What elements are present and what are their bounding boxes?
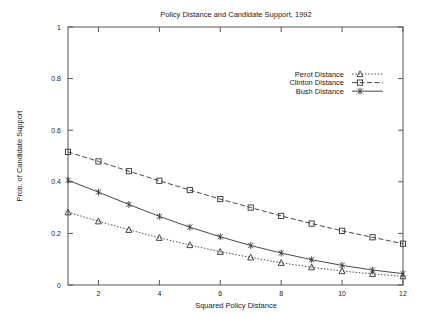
plot-frame [68, 27, 403, 285]
series-line [68, 152, 403, 244]
x-tick-label: 10 [338, 290, 346, 297]
policy-distance-chart: Policy Distance and Candidate Support, 1… [0, 0, 424, 318]
x-axis-title: Squared Policy Distance [195, 301, 277, 310]
series-bush-distance [65, 177, 405, 277]
data-point-marker [278, 260, 284, 266]
y-axis-title: Prob. of Candidate Support [15, 110, 24, 202]
series-perot-distance [65, 209, 406, 279]
chart-container: Policy Distance and Candidate Support, 1… [0, 0, 424, 318]
x-tick-label: 2 [97, 290, 101, 297]
y-tick-label: 0.6 [51, 127, 61, 134]
legend-label: Bush Distance [296, 87, 344, 96]
chart-title: Policy Distance and Candidate Support, 1… [160, 10, 311, 19]
y-tick-label: 0.2 [51, 230, 61, 237]
data-point-marker [126, 201, 131, 208]
data-point-marker [156, 235, 162, 241]
data-point-marker [279, 213, 284, 218]
x-tick-label: 12 [399, 290, 407, 297]
series-layer [65, 149, 406, 279]
chart-legend: Perot DistanceClinton DistanceBush Dista… [289, 70, 383, 96]
x-tick-label: 8 [279, 290, 283, 297]
y-tick-label: 0.4 [51, 178, 61, 185]
y-tick-label: 0 [57, 282, 61, 289]
series-clinton-distance [65, 149, 405, 246]
x-tick-label: 4 [157, 290, 161, 297]
x-tick-label: 6 [218, 290, 222, 297]
y-tick-label: 1 [57, 24, 61, 31]
y-axis-ticks: 00.20.40.60.81 [51, 24, 403, 289]
data-point-marker [65, 177, 70, 184]
y-tick-label: 0.8 [51, 75, 61, 82]
data-point-marker [157, 178, 162, 183]
data-point-marker [187, 224, 192, 231]
data-point-marker [157, 213, 162, 220]
data-point-marker [96, 189, 101, 196]
data-point-marker [218, 233, 223, 240]
